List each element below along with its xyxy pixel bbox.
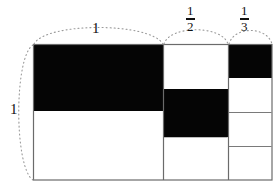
label-width-one: 1 [92, 21, 100, 36]
label-one-third: 1 3 [240, 4, 249, 34]
arc-half [164, 30, 228, 44]
arc-height-1 [19, 45, 33, 180]
fraction-one-third: 1 3 [240, 4, 249, 33]
figure-canvas: 1 1 1 2 1 3 [0, 0, 280, 193]
label-height-one: 1 [10, 102, 18, 117]
fraction-one-half: 1 2 [186, 4, 195, 33]
cell-left-bottom [33, 111, 163, 180]
dissection-diagram [0, 0, 280, 193]
cell-mid-middle [163, 89, 228, 137]
label-one-half: 1 2 [186, 4, 195, 34]
fraction-denominator: 2 [186, 20, 195, 33]
fraction-denominator: 3 [240, 20, 249, 33]
arc-third [229, 31, 272, 45]
cell-mid-top [163, 44, 228, 89]
cell-right-r2 [228, 78, 272, 112]
cell-right-r3 [228, 112, 272, 146]
fraction-numerator: 1 [186, 4, 195, 17]
cell-right-r4 [228, 146, 272, 180]
fraction-numerator: 1 [240, 4, 249, 17]
cell-left-top [33, 44, 163, 111]
cell-mid-bottom [163, 137, 228, 180]
cell-right-r1 [228, 44, 272, 78]
